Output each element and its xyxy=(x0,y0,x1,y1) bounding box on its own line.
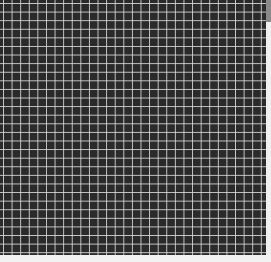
grid-image xyxy=(0,0,266,255)
bottom-border xyxy=(0,255,271,262)
scrollbar-thumb[interactable] xyxy=(266,0,271,22)
right-border xyxy=(266,22,271,262)
